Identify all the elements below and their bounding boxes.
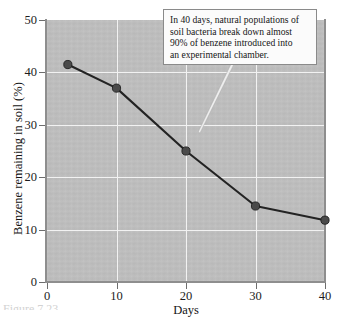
gridline-vertical [117, 20, 118, 282]
y-axis-label: Benzene remaining in soil (%) [11, 59, 26, 259]
annotation-line: 90% of benzene introduced into [170, 37, 311, 49]
tick-label-x: 10 [102, 290, 132, 302]
tick-label-y: 50 [3, 14, 37, 26]
tick-y [39, 72, 45, 73]
annotation-line: soil bacteria break down almost [170, 26, 311, 38]
axis-spine-left [45, 19, 47, 283]
tick-y [39, 230, 45, 231]
figure-chart-benzene-degradation: 0 10 20 30 40 50 0 10 20 30 40 Benzene r… [0, 0, 337, 317]
tick-y [39, 20, 45, 21]
x-axis-label: Days [47, 303, 325, 317]
tick-y [39, 282, 45, 283]
annotation-line: an experimental chamber. [170, 49, 311, 61]
tick-label-x: 40 [310, 290, 337, 302]
tick-label-x: 0 [32, 290, 62, 302]
tick-label-x: 20 [171, 290, 201, 302]
tick-y [39, 177, 45, 178]
tick-y [39, 125, 45, 126]
annotation-line: In 40 days, natural populations of [170, 14, 311, 26]
tick-label-x: 30 [241, 290, 271, 302]
annotation-callout-box: In 40 days, natural populations of soil … [163, 9, 317, 65]
figure-caption-fragment: Figure 7.23 [3, 303, 58, 310]
tick-label-y: 0 [3, 276, 37, 288]
axis-spine-right [324, 19, 326, 283]
